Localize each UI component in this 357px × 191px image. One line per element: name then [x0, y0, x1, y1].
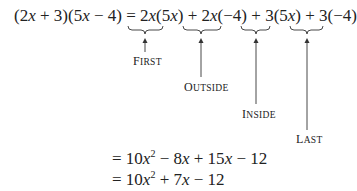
brace-last-icon	[290, 26, 323, 34]
label-inside: INSIDE	[242, 107, 276, 122]
brace-outside-icon	[183, 26, 221, 34]
step-2: = 10x2 + 7x − 12	[112, 170, 225, 188]
brace-first-icon	[128, 26, 163, 34]
label-outside: OUTSIDE	[184, 80, 229, 95]
brace-inside-icon	[241, 26, 270, 34]
step-1: = 10x2 − 8x + 15x − 12	[112, 149, 267, 167]
label-last: LAST	[296, 132, 323, 147]
label-first: FIRST	[133, 54, 162, 69]
arrow-outside-icon	[199, 38, 204, 43]
arrow-inside-icon	[254, 38, 259, 43]
arrow-last-icon	[305, 38, 310, 43]
arrow-first-icon	[143, 38, 148, 43]
